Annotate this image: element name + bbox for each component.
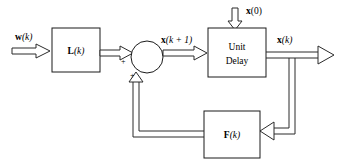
block-unit-delay <box>208 28 266 77</box>
sum-sign-plus-bottom: + <box>130 71 135 80</box>
arrow-initial-state-x0 <box>228 8 242 30</box>
label-output-x: x(k) <box>277 35 292 46</box>
feedback-line-lower-outer <box>133 82 204 137</box>
arrow-summer-to-delay <box>163 46 207 60</box>
block-gain-f-arg: (k) <box>230 130 241 141</box>
block-gain-l-label: L(k) <box>68 46 85 57</box>
block-diagram-canvas: w(k) L(k) + + x(k + 1) x(0) Unit Delay x… <box>0 0 343 165</box>
feedback-line-lower-inner <box>139 82 204 131</box>
label-input-w: w(k) <box>15 32 32 43</box>
diagram-svg: w(k) L(k) + + x(k + 1) x(0) Unit Delay x… <box>0 0 343 165</box>
arrow-into-gain-f <box>260 122 274 140</box>
label-state-next-arg: (k + 1) <box>166 35 192 46</box>
sum-sign-plus-left: + <box>121 57 126 66</box>
block-gain-f-label: F(k) <box>224 130 240 141</box>
label-output-x-arg: (k) <box>282 35 293 46</box>
block-unit-delay-line2: Delay <box>226 56 249 66</box>
label-initial-state: x(0) <box>246 6 262 17</box>
label-initial-state-arg: (0) <box>251 6 262 17</box>
label-input-w-arg: (k) <box>22 32 33 43</box>
input-arrow-w <box>12 44 50 58</box>
summing-junction <box>131 41 163 73</box>
block-unit-delay-line1: Unit <box>229 42 246 52</box>
output-arrowhead-x <box>318 46 334 64</box>
label-state-next: x(k + 1) <box>161 35 192 46</box>
block-gain-l-arg: (k) <box>74 46 85 57</box>
arrow-l-to-summer <box>100 46 133 60</box>
